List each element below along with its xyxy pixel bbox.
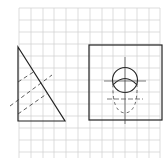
side-view-triangle [18,47,65,121]
projection-drawing [0,0,164,165]
centerlines [104,57,146,124]
